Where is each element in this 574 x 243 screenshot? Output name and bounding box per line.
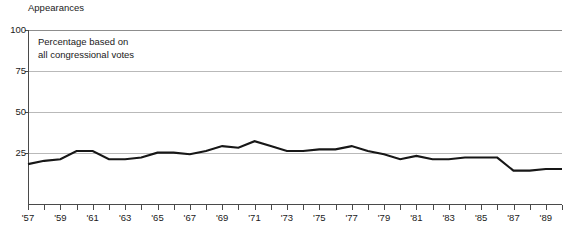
y-axis-title: Appearances — [28, 2, 84, 13]
x-tick-mark-1970 — [238, 205, 239, 210]
x-tick-mark-1963 — [125, 205, 126, 210]
x-tick-mark-1967 — [190, 205, 191, 210]
x-tick-label-59: '59 — [54, 212, 66, 223]
x-tick-mark-1974 — [303, 205, 304, 210]
x-tick-mark-1968 — [206, 205, 207, 210]
x-tick-label-63: '63 — [119, 212, 131, 223]
x-tick-label-57: '57 — [22, 212, 34, 223]
y-tick-label-50: 50 — [2, 106, 26, 117]
x-tick-mark-1964 — [141, 205, 142, 210]
x-tick-mark-1984 — [465, 205, 466, 210]
chart-container: Appearances Percentage based on all cong… — [0, 0, 574, 243]
x-tick-mark-1988 — [530, 205, 531, 210]
x-tick-mark-1971 — [255, 205, 256, 210]
y-tick-label-100: 100 — [2, 24, 26, 35]
x-tick-label-73: '73 — [281, 212, 293, 223]
plot-area: Percentage based on all congressional vo… — [28, 30, 562, 205]
x-tick-mark-1958 — [44, 205, 45, 210]
data-line — [28, 30, 562, 205]
x-tick-label-79: '79 — [378, 212, 390, 223]
x-tick-mark-1986 — [497, 205, 498, 210]
x-tick-mark-1979 — [384, 205, 385, 210]
x-tick-mark-1965 — [158, 205, 159, 210]
x-tick-mark-1985 — [481, 205, 482, 210]
x-tick-mark-1975 — [319, 205, 320, 210]
x-tick-mark-1980 — [400, 205, 401, 210]
x-tick-label-61: '61 — [86, 212, 98, 223]
x-tick-mark-1959 — [60, 205, 61, 210]
x-tick-mark-1976 — [336, 205, 337, 210]
x-tick-label-77: '77 — [345, 212, 357, 223]
x-tick-mark-1982 — [433, 205, 434, 210]
x-tick-label-75: '75 — [313, 212, 325, 223]
y-tick-label-75: 75 — [2, 65, 26, 76]
x-tick-mark-1981 — [416, 205, 417, 210]
x-tick-label-81: '81 — [410, 212, 422, 223]
x-tick-label-85: '85 — [475, 212, 487, 223]
x-tick-label-83: '83 — [442, 212, 454, 223]
x-tick-label-65: '65 — [151, 212, 163, 223]
x-tick-label-89: '89 — [540, 212, 552, 223]
x-tick-mark-1987 — [514, 205, 515, 210]
x-tick-mark-1977 — [352, 205, 353, 210]
x-tick-mark-1962 — [109, 205, 110, 210]
x-tick-mark-1990 — [562, 205, 563, 210]
y-tick-label-25: 25 — [2, 147, 26, 158]
x-tick-mark-1983 — [449, 205, 450, 210]
x-tick-mark-1969 — [222, 205, 223, 210]
x-tick-mark-1978 — [368, 205, 369, 210]
x-tick-mark-1966 — [174, 205, 175, 210]
x-tick-label-87: '87 — [507, 212, 519, 223]
x-tick-label-67: '67 — [184, 212, 196, 223]
x-tick-mark-1989 — [546, 205, 547, 210]
x-tick-label-69: '69 — [216, 212, 228, 223]
x-tick-mark-1972 — [271, 205, 272, 210]
x-tick-mark-1961 — [93, 205, 94, 210]
x-tick-label-71: '71 — [248, 212, 260, 223]
x-tick-mark-1973 — [287, 205, 288, 210]
x-tick-mark-1960 — [77, 205, 78, 210]
x-tick-mark-1957 — [28, 205, 29, 210]
